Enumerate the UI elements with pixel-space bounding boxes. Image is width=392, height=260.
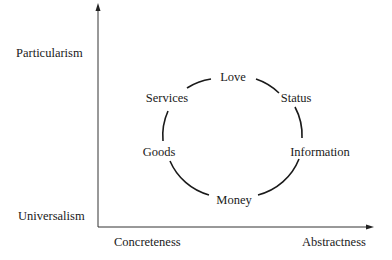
- node-status: Status: [281, 92, 312, 105]
- node-money: Money: [216, 194, 251, 207]
- y-axis-arrowhead: [96, 3, 101, 11]
- node-love: Love: [220, 71, 246, 84]
- x-axis-arrowhead: [366, 225, 374, 230]
- node-services: Services: [146, 92, 188, 105]
- node-information: Information: [290, 146, 350, 159]
- node-goods: Goods: [143, 146, 176, 159]
- x-axis-right-label: Abstractness: [302, 236, 366, 249]
- y-axis-bottom-label: Universalism: [18, 210, 85, 223]
- y-axis-top-label: Particularism: [16, 47, 83, 60]
- x-axis-left-label: Concreteness: [114, 236, 181, 249]
